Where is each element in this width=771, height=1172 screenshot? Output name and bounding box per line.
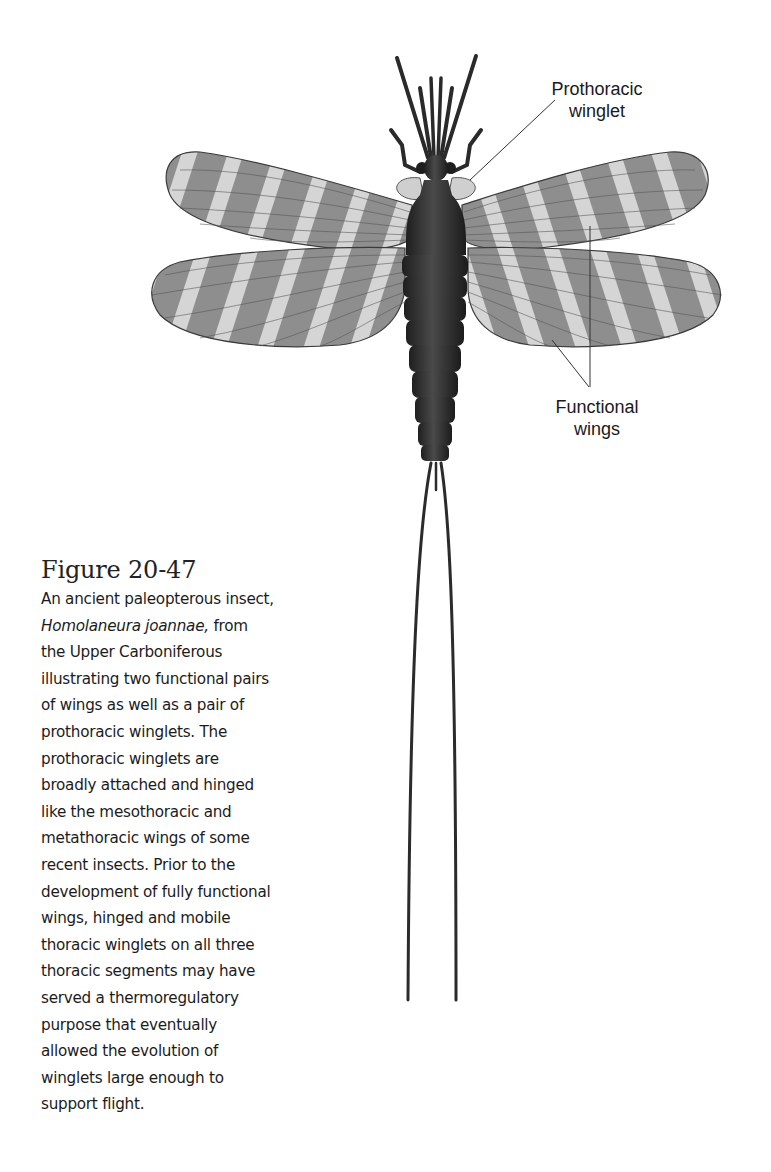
caption-line: illustrating two functional pairs: [41, 670, 269, 688]
species-name: Homolaneura joannae,: [41, 617, 209, 635]
label-line: Functional: [532, 396, 662, 418]
caption-line: broadly attached and hinged: [41, 776, 254, 794]
caption-line: An ancient paleopterous insect,: [41, 590, 274, 608]
caption-line: the Upper Carboniferous: [41, 643, 222, 661]
right-hindwing: [468, 248, 722, 347]
caption-line: wings, hinged and mobile: [41, 909, 230, 927]
caption-body: An ancient paleopterous insect,Homolaneu…: [41, 586, 371, 1118]
caption-line: winglets large enough to: [41, 1069, 224, 1087]
caption-line: of wings as well as a pair of: [41, 696, 244, 714]
label-line: Prothoracic: [532, 78, 662, 100]
head-appendages: [391, 56, 481, 172]
figure-title: Figure 20-47: [41, 556, 371, 584]
caption-line: support flight.: [41, 1095, 144, 1113]
figure-caption: Figure 20-47 An ancient paleopterous ins…: [41, 556, 371, 1118]
caption-line: thoracic winglets on all three: [41, 936, 254, 954]
caption-line: recent insects. Prior to the: [41, 856, 235, 874]
right-forewing: [462, 152, 708, 250]
caption-line: prothoracic winglets are: [41, 750, 219, 768]
caption-line: purpose that eventually: [41, 1016, 217, 1034]
caption-line: prothoracic winglets. The: [41, 723, 227, 741]
head: [424, 155, 448, 181]
caption-line: development of fully functional: [41, 883, 271, 901]
caption-line: served a thermoregulatory: [41, 989, 239, 1007]
left-forewing: [166, 152, 412, 250]
left-hindwing: [152, 248, 405, 347]
caption-line: like the mesothoracic and: [41, 803, 231, 821]
caption-line: allowed the evolution of: [41, 1042, 218, 1060]
caption-line: Homolaneura joannae, from: [41, 617, 248, 635]
cerci: [408, 463, 456, 1000]
functional-wings-label: Functional wings: [532, 396, 662, 440]
label-line: winglet: [532, 100, 662, 122]
label-line: wings: [532, 418, 662, 440]
prothoracic-winglet-label: Prothoracic winglet: [532, 78, 662, 122]
caption-line: metathoracic wings of some: [41, 829, 250, 847]
abdomen: [402, 255, 468, 461]
caption-line: thoracic segments may have: [41, 962, 255, 980]
